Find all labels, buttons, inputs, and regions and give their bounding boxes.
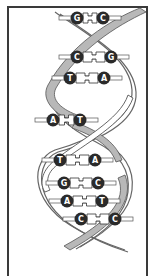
base-letter: G	[61, 179, 68, 188]
pair-connector	[73, 196, 96, 206]
base-letter: C	[74, 53, 80, 62]
base-letter: A	[101, 74, 108, 83]
base-letter: A	[92, 156, 99, 165]
base-letter: C	[78, 215, 84, 224]
base-letter: A	[64, 197, 71, 206]
base-letter: T	[77, 116, 83, 125]
pair-connector	[66, 155, 89, 165]
pair-connector	[87, 214, 109, 224]
pair-connector	[83, 52, 105, 62]
base-pair: AT	[49, 195, 120, 208]
base-letter: C	[100, 14, 106, 23]
pair-connector	[70, 178, 92, 188]
base-letter: T	[99, 197, 105, 206]
base-letter: T	[57, 156, 63, 165]
base-letter: C	[112, 215, 118, 224]
base-letter: G	[108, 53, 115, 62]
pair-connector	[83, 13, 97, 23]
base-pair: GC	[46, 177, 116, 190]
base-letter: T	[67, 74, 73, 83]
base-letter: G	[74, 14, 81, 23]
pair-connector	[76, 73, 98, 83]
base-letter: C	[95, 179, 101, 188]
base-letter: A	[50, 116, 57, 125]
